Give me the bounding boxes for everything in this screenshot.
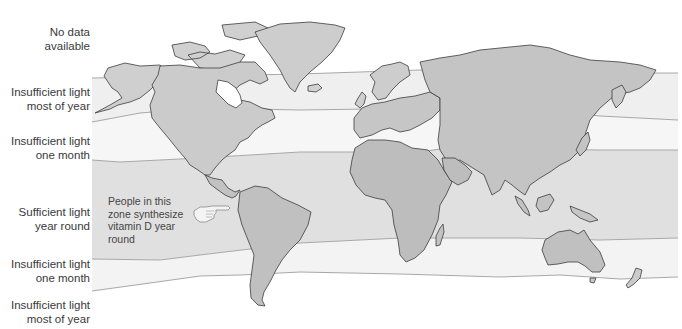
label-no-data: No data available (0, 25, 90, 53)
label-line: Insufficient light (0, 134, 90, 148)
label-insufficient-month-north: Insufficient light one month (0, 134, 90, 162)
label-line: most of year (0, 99, 90, 113)
label-insufficient-month-south: Insufficient light one month (0, 257, 90, 285)
label-line: Insufficient light (0, 257, 90, 271)
label-line: most of year (0, 312, 90, 326)
label-sufficient: Sufficient light year round (0, 205, 90, 233)
label-line: Insufficient light (0, 298, 90, 312)
label-line: available (0, 39, 90, 53)
label-line: one month (0, 148, 90, 162)
label-insufficient-most-south: Insufficient light most of year (0, 298, 90, 326)
label-line: Sufficient light (0, 205, 90, 219)
label-insufficient-most-north: Insufficient light most of year (0, 85, 90, 113)
vitamin-d-world-map-figure: No data available Insufficient light mos… (0, 0, 682, 329)
label-line: Insufficient light (0, 85, 90, 99)
callout-line: round (108, 233, 218, 246)
label-line: year round (0, 219, 90, 233)
pointing-hand-icon (192, 203, 232, 225)
landmass-tasmania (590, 278, 596, 283)
label-line: one month (0, 271, 90, 285)
world-map (0, 0, 682, 329)
label-line: No data (0, 25, 90, 39)
